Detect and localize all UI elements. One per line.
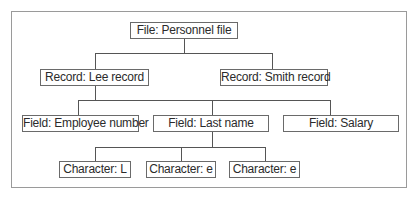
node-file: File: Personnel file: [130, 22, 238, 39]
node-record-smith: Record: Smith record: [220, 69, 328, 86]
node-record-lee: Record: Lee record: [40, 69, 149, 86]
connector-to-salary: [330, 100, 331, 115]
node-char-2: Character: e: [146, 161, 216, 178]
connector-to-char-2: [181, 147, 182, 161]
node-field-lastname: Field: Last name: [153, 115, 269, 132]
connector-fields-bar: [78, 100, 331, 101]
connector-file-down: [184, 38, 185, 54]
node-field-salary: Field: Salary: [283, 115, 399, 132]
connector-to-lastname: [212, 100, 213, 115]
connector-lastname-down: [212, 131, 213, 147]
connector-lee-down: [95, 85, 96, 100]
connector-to-smith: [272, 53, 273, 70]
node-char-1: Character: L: [59, 161, 131, 178]
connector-to-lee: [95, 53, 96, 69]
connector-to-char-1: [95, 147, 96, 161]
node-field-employee: Field: Employee number: [22, 115, 139, 132]
node-char-3: Character: e: [229, 161, 300, 178]
connector-to-employee: [78, 100, 79, 115]
connector-to-char-3: [265, 147, 266, 161]
connector-records-bar: [95, 53, 273, 54]
